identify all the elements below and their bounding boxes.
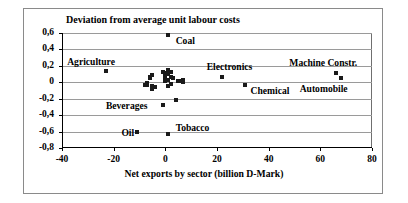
data-point [169, 82, 173, 86]
data-point-beverages [161, 103, 165, 107]
data-point-machine-constr [334, 71, 338, 75]
point-label-agriculture: Agriculture [67, 57, 115, 67]
y-axis-tick [59, 66, 62, 67]
data-point-agriculture [104, 69, 108, 73]
y-gridline [63, 115, 372, 116]
y-axis-tick-label: -0,2 [28, 94, 54, 103]
y-gridline [63, 33, 372, 34]
x-axis-tick [269, 148, 270, 151]
y-axis-tick-label: 0,2 [28, 61, 54, 70]
data-point [181, 78, 185, 82]
data-point [143, 83, 147, 87]
x-axis-tick-label: 60 [305, 155, 335, 164]
point-label-coal: Coal [176, 36, 195, 46]
data-point [171, 76, 175, 80]
point-label-electronics: Electronics [207, 62, 253, 72]
point-label-beverages: Beverages [106, 101, 148, 111]
y-axis-tick [59, 99, 62, 100]
x-axis-tick-label: -40 [47, 155, 77, 164]
point-label-chemical: Chemical [251, 86, 290, 96]
x-axis-tick [217, 148, 218, 151]
x-axis-tick-label: 20 [202, 155, 232, 164]
y-axis-tick-label: -0,6 [28, 127, 54, 136]
y-axis-tick-label: 0,4 [28, 44, 54, 53]
point-label-tobacco: Tobacco [176, 123, 210, 133]
y-axis-tick [59, 82, 62, 83]
data-point-automobile [339, 76, 343, 80]
point-label-machine-constr: Machine Constr. [289, 58, 357, 68]
x-axis-tick-label: 40 [254, 155, 284, 164]
y-axis-tick-label: -0,4 [28, 110, 54, 119]
data-point [150, 73, 154, 77]
chart-title: Deviation from average unit labour costs [66, 14, 240, 25]
y-axis-tick [59, 115, 62, 116]
data-point [174, 98, 178, 102]
data-point-tobacco [166, 132, 170, 136]
x-axis-tick [114, 148, 115, 151]
data-point [153, 85, 157, 89]
y-axis-tick-label: 0,6 [28, 28, 54, 37]
x-axis-tick-label: -20 [99, 155, 129, 164]
x-axis-tick [165, 148, 166, 151]
x-axis-tick-label: 80 [357, 155, 387, 164]
y-axis-tick [59, 33, 62, 34]
data-point-electronics [220, 75, 224, 79]
x-axis-tick [320, 148, 321, 151]
chart-container: Deviation from average unit labour costs… [0, 0, 408, 203]
y-axis-tick [59, 49, 62, 50]
x-axis-tick [62, 148, 63, 151]
point-label-automobile: Automobile [300, 84, 348, 94]
x-axis-tick [372, 148, 373, 151]
point-label-oil: Oil [121, 128, 134, 138]
data-point-oil [135, 130, 139, 134]
data-point-chemical [243, 83, 247, 87]
x-axis-title: Net exports by sector (billion D-Mark) [0, 168, 408, 179]
data-point-coal [166, 33, 170, 37]
y-axis-tick-label: -0,8 [28, 143, 54, 152]
y-axis-tick-label: 0 [28, 77, 54, 86]
x-axis-tick-label: 0 [150, 155, 180, 164]
y-gridline [63, 49, 372, 50]
y-axis-tick [59, 132, 62, 133]
y-gridline [63, 132, 372, 133]
